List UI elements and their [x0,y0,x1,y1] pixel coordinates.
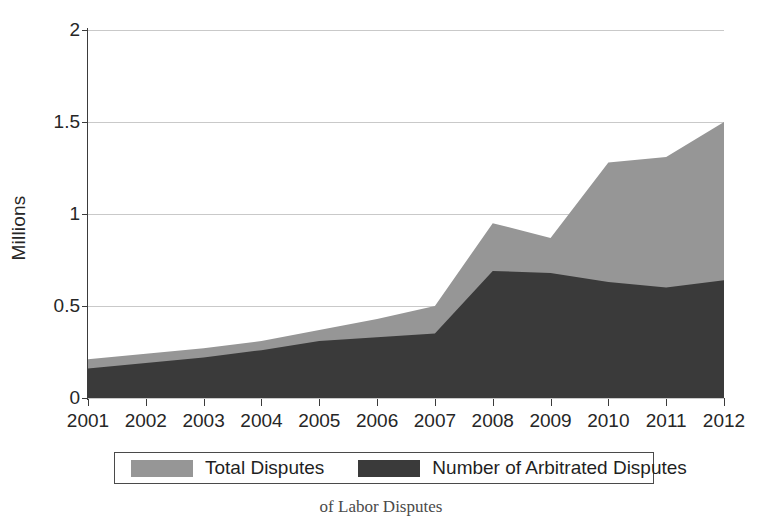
legend-swatch-arbitrated-disputes [358,460,420,477]
y-tick-label: 1 [30,203,80,225]
y-tick-label: 0 [30,387,80,409]
x-tick-label: 2005 [298,410,340,432]
x-tick-mark [608,399,609,406]
x-tick-mark [493,399,494,406]
x-tick-label: 2002 [125,410,167,432]
y-axis-title: Millions [8,168,30,288]
x-tick-mark [377,399,378,406]
x-tick-label: 2011 [646,410,687,432]
x-tick-mark [261,399,262,406]
x-tick-mark [319,399,320,406]
y-tick-label: 1.5 [30,111,80,133]
figure-caption: of Labor Disputes [0,497,762,517]
area-series-group [88,30,724,398]
x-tick-label: 2004 [240,410,282,432]
x-tick-label: 2010 [587,410,629,432]
x-tick-label: 2001 [67,410,109,432]
legend-label-arbitrated-disputes: Number of Arbitrated Disputes [432,457,687,479]
x-tick-label: 2009 [529,410,571,432]
x-tick-mark [551,399,552,406]
x-tick-label: 2012 [703,410,745,432]
y-tick-label: 2 [30,19,80,41]
x-tick-label: 2008 [472,410,514,432]
legend-label-total-disputes: Total Disputes [205,457,324,479]
x-tick-label: 2003 [182,410,224,432]
gridline [88,398,724,399]
x-tick-mark [88,399,89,406]
x-tick-label: 2006 [356,410,398,432]
chart-legend: Total Disputes Number of Arbitrated Disp… [114,452,654,484]
x-tick-mark [724,399,725,406]
x-tick-label: 2007 [414,410,456,432]
y-tick-label: 0.5 [30,295,80,317]
x-tick-mark [146,399,147,406]
x-tick-mark [666,399,667,406]
x-tick-mark [435,399,436,406]
legend-entry-arbitrated-disputes: Number of Arbitrated Disputes [358,453,687,483]
legend-swatch-total-disputes [131,460,193,477]
legend-entry-total-disputes: Total Disputes [131,453,324,483]
x-tick-mark [204,399,205,406]
